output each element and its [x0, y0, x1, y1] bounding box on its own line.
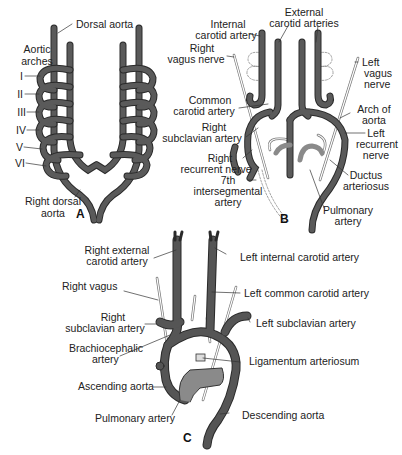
label-pulmonary-artery-c: Pulmonary artery	[95, 413, 175, 424]
panel-letter-b: B	[280, 212, 289, 226]
label-common-carotid-line2: carotid artery	[166, 106, 242, 117]
label-right-subclavian-c-line2: subclavian artery	[64, 323, 146, 334]
label-arch-iii: III	[4, 107, 26, 118]
label-ligamentum-arteriosum: Ligamentum arteriosum	[249, 356, 359, 367]
label-left-common-carotid: Left common carotid artery	[244, 288, 369, 299]
panel-letter-a: A	[76, 207, 85, 221]
label-aortic-arches-line1: Aortic	[17, 44, 57, 55]
label-internal-carotid-line2: carotid artery	[186, 30, 266, 41]
label-arch-vi: VI	[4, 158, 25, 169]
label-7th-intersegmental-line3: artery	[190, 197, 266, 208]
aortic-arch-development-diagram	[0, 0, 402, 455]
label-brachiocephalic-line2: artery	[92, 354, 119, 365]
label-arch-v: V	[4, 142, 23, 153]
label-arch-iv: IV	[4, 125, 26, 136]
label-arch-i: I	[4, 71, 23, 82]
label-ascending-aorta: Ascending aorta	[78, 381, 154, 392]
label-right-subclavian-line2: subclavian artery	[158, 133, 246, 144]
label-left-subclavian: Left subclavian artery	[256, 318, 356, 329]
label-right-dorsal-aorta-line1: Right dorsal	[22, 196, 84, 207]
label-right-dorsal-aorta-line2: aorta	[22, 208, 84, 219]
label-right-external-carotid-line2: carotid artery	[80, 256, 154, 267]
label-arch-ii: II	[4, 89, 23, 100]
label-ductus-line2: arteriosus	[336, 181, 396, 192]
label-left-recurrent-line3: nerve	[352, 150, 400, 161]
panel-letter-c: C	[183, 431, 192, 445]
label-external-carotid-line2: carotid arteries	[258, 18, 350, 29]
label-right-vagus-line2: vagus nerve	[164, 54, 228, 65]
label-right-recurrent-line2: recurrent nerve	[176, 164, 256, 175]
label-arch-of-aorta-line2: aorta	[350, 115, 398, 126]
label-pulmonary-artery-b-line2: artery	[318, 216, 378, 227]
label-dorsal-aorta: Dorsal aorta	[76, 19, 133, 30]
label-left-internal-carotid: Left internal carotid artery	[240, 252, 359, 263]
label-descending-aorta: Descending aorta	[242, 410, 324, 421]
label-left-vagus-line3: nerve	[364, 79, 390, 90]
label-right-vagus-c: Right vagus	[62, 281, 117, 292]
label-aortic-arches-line2: arches	[17, 56, 57, 67]
